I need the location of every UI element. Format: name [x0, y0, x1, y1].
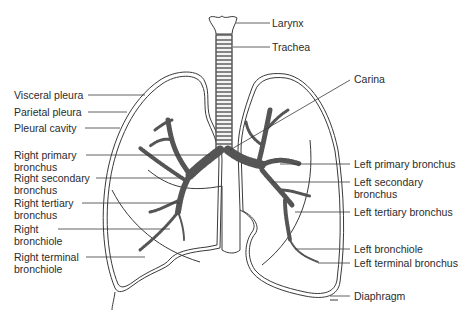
label-right-bronchiole: Right bronchiole [14, 223, 62, 247]
label-visceral-pleura: Visceral pleura [14, 89, 83, 101]
right-lung-outline [103, 72, 222, 292]
label-left-bronchiole: Left bronchiole [354, 243, 423, 255]
label-line1: Right primary [14, 149, 76, 161]
label-right-secondary-bronchus: Right secondary bronchus [14, 172, 90, 196]
label-line2: bronchus [14, 209, 74, 221]
right-bronchial-tree [140, 120, 220, 250]
label-line1: Right secondary [14, 172, 90, 184]
label-diaphragm: Diaphragm [354, 290, 405, 302]
label-left-secondary-bronchus: Left secondary bronchus [354, 176, 423, 200]
label-carina: Carina [354, 73, 385, 85]
right-lung-inner-outline [107, 76, 219, 287]
label-left-terminal-bronchus: Left terminal bronchus [354, 257, 458, 269]
left-lung-outline [238, 74, 344, 298]
mediastinum-lines [222, 186, 240, 253]
label-line2: bronchiole [14, 235, 62, 247]
label-right-terminal-bronchiole: Right terminal bronchiole [14, 251, 79, 275]
label-line1: Right tertiary [14, 197, 74, 209]
label-left-tertiary-bronchus: Left tertiary bronchus [354, 206, 453, 218]
label-line2: bronchiole [14, 263, 79, 275]
left-lung-inner-outline [241, 78, 340, 294]
label-line1: Left secondary [354, 176, 423, 188]
diaphragm-line [112, 292, 338, 310]
label-right-tertiary-bronchus: Right tertiary bronchus [14, 197, 74, 221]
label-pleural-cavity: Pleural cavity [14, 122, 76, 134]
label-larynx: Larynx [272, 17, 304, 29]
right-oblique-fissure [112, 190, 200, 262]
label-right-primary-bronchus: Right primary bronchus [14, 149, 76, 173]
label-line2: bronchus [14, 184, 90, 196]
label-trachea: Trachea [272, 41, 310, 53]
left-bronchial-tree [228, 110, 318, 262]
label-line1: Right terminal [14, 251, 79, 263]
label-left-primary-bronchus: Left primary bronchus [354, 158, 456, 170]
label-line2: bronchus [354, 188, 423, 200]
label-line1: Right [14, 223, 62, 235]
larynx-shape [209, 16, 237, 34]
label-parietal-pleura: Parietal pleura [14, 106, 82, 118]
